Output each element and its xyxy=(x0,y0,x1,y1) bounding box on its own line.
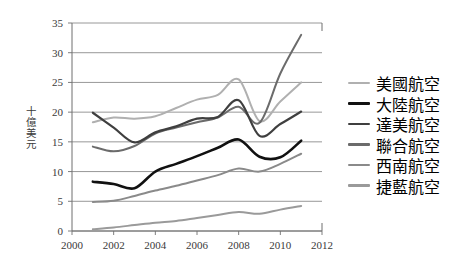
legend-color-swatch xyxy=(348,164,370,166)
series-line xyxy=(93,100,301,143)
legend-item[interactable]: 捷藍航空 xyxy=(348,177,440,195)
legend-color-swatch xyxy=(348,143,370,146)
y-axis-tick-marks xyxy=(68,23,72,231)
y-axis-tick-labels: 35302520151050 xyxy=(52,17,64,237)
y-tick-label: 5 xyxy=(58,195,64,207)
y-tick-label: 15 xyxy=(52,136,64,148)
legend-item[interactable]: 美國航空 xyxy=(348,74,440,92)
x-tick-label: 2010 xyxy=(269,239,292,251)
legend-color-swatch xyxy=(348,82,370,84)
legend-item[interactable]: 達美航空 xyxy=(348,115,440,133)
x-tick-label: 2012 xyxy=(311,239,333,251)
y-tick-label: 35 xyxy=(52,17,64,29)
x-tick-label: 2002 xyxy=(103,239,125,251)
x-tick-label: 2006 xyxy=(186,239,209,251)
legend-item[interactable]: 西南航空 xyxy=(348,156,440,174)
legend-item[interactable]: 大陸航空 xyxy=(348,95,440,113)
x-tick-label: 2004 xyxy=(144,239,167,251)
series-line xyxy=(93,206,301,229)
y-axis-title: 十億美元 xyxy=(22,106,36,150)
legend-color-swatch xyxy=(348,102,370,105)
series-lines xyxy=(93,35,301,229)
legend-item-label: 捷藍航空 xyxy=(376,174,440,198)
y-tick-label: 30 xyxy=(52,47,64,59)
y-tick-label: 10 xyxy=(52,166,64,178)
line-chart: 35302520151050 2000200220042006200820102… xyxy=(0,0,450,276)
legend-color-swatch xyxy=(348,184,370,186)
y-tick-label: 0 xyxy=(58,225,64,237)
x-axis-tick-marks xyxy=(72,231,322,235)
legend-item[interactable]: 聯合航空 xyxy=(348,136,440,154)
series-line xyxy=(93,154,301,202)
y-tick-label: 20 xyxy=(52,106,64,118)
gridlines xyxy=(72,23,322,231)
x-tick-label: 2008 xyxy=(228,239,251,251)
x-axis-tick-labels: 2000200220042006200820102012 xyxy=(61,239,333,251)
legend-color-swatch xyxy=(348,123,370,126)
axis-lines xyxy=(72,23,322,231)
y-tick-label: 25 xyxy=(52,76,64,88)
x-tick-label: 2000 xyxy=(61,239,84,251)
